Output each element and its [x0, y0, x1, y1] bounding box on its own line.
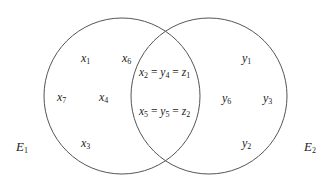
intersection-row-1: x2 = y4 = z1: [139, 67, 190, 80]
venn-circles: [0, 0, 324, 183]
element-x4: x4: [99, 91, 108, 105]
element-x7: x7: [57, 91, 66, 105]
element-x3: x3: [81, 137, 90, 151]
set-label-e2: E2: [304, 140, 316, 155]
element-y3: y3: [263, 92, 272, 106]
element-x6: x6: [122, 52, 131, 66]
set-label-e1: E1: [16, 140, 28, 155]
set-e1-circle: [44, 18, 200, 174]
element-x1: x1: [81, 52, 90, 66]
element-y1: y1: [242, 52, 251, 66]
intersection-row-2: x5 = y5 = z2: [139, 106, 190, 119]
element-y6: y6: [222, 92, 231, 106]
element-y2: y2: [242, 137, 251, 151]
